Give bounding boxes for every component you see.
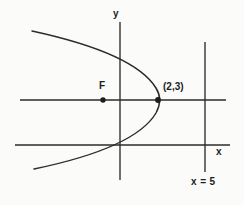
x-axis-label: x: [216, 147, 222, 157]
directrix-label: x = 5: [191, 177, 216, 187]
parabola-figure: y x F (2,3) x = 5: [0, 0, 244, 205]
y-axis-label: y: [113, 9, 119, 19]
focus-label: F: [99, 81, 105, 91]
figure-canvas: [0, 0, 244, 205]
focus-point-dot: [100, 97, 105, 102]
vertex-coordinate-label: (2,3): [163, 82, 184, 92]
vertex-point-dot: [155, 97, 161, 103]
